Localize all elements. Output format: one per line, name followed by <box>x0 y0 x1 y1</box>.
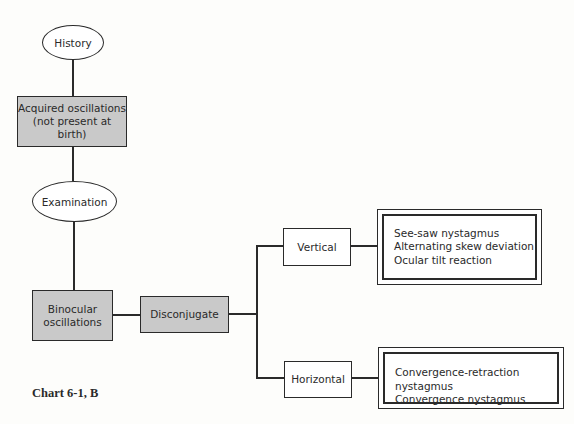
outcome-convergence-retraction: Convergence-retraction nystagmus <box>395 366 557 393</box>
acquired-label-line2: (not present at birth) <box>18 115 126 141</box>
examination-label: Examination <box>42 196 108 208</box>
outcome-ocular-tilt: Ocular tilt reaction <box>394 254 535 268</box>
connector-acquired-examination <box>72 146 74 181</box>
outcome-convergence: Convergence nystagmus <box>395 393 557 407</box>
horizontal-outcomes-box: Convergence-retraction nystagmus Converg… <box>378 347 564 409</box>
vertical-label: Vertical <box>297 241 336 254</box>
connector-branch-horizontal <box>256 377 284 379</box>
binocular-label-line1: Binocular <box>48 303 97 316</box>
history-label: History <box>54 37 91 49</box>
chart-caption: Chart 6-1, B <box>32 386 98 401</box>
connector-vertical-outcomes <box>351 245 377 247</box>
acquired-oscillations-node: Acquired oscillations (not present at bi… <box>17 96 127 147</box>
vertical-node: Vertical <box>283 228 351 266</box>
connector-disconjugate-branch <box>229 313 257 315</box>
binocular-oscillations-node: Binocular oscillations <box>32 290 113 341</box>
binocular-label-line2: oscillations <box>43 316 101 329</box>
acquired-label-line1: Acquired oscillations <box>18 102 126 115</box>
connector-history-acquired <box>72 59 74 96</box>
horizontal-node: Horizontal <box>284 361 352 398</box>
outcome-skew-deviation: Alternating skew deviation <box>394 240 535 254</box>
vertical-outcomes-box: See-saw nystagmus Alternating skew devia… <box>377 209 542 285</box>
connector-horizontal-outcomes <box>352 377 378 379</box>
connector-branch-vertical-trunk <box>256 245 258 379</box>
examination-node: Examination <box>32 181 117 222</box>
connector-examination-binocular <box>73 221 75 290</box>
connector-binocular-disconjugate <box>113 314 140 316</box>
outcome-see-saw: See-saw nystagmus <box>394 227 535 241</box>
disconjugate-node: Disconjugate <box>140 296 229 333</box>
horizontal-label: Horizontal <box>291 373 345 386</box>
disconjugate-label: Disconjugate <box>150 308 219 321</box>
history-node: History <box>42 25 104 60</box>
connector-branch-vertical <box>256 245 283 247</box>
